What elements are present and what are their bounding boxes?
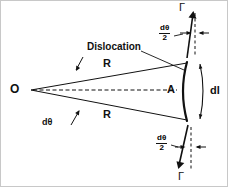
- arc-length-label: dl: [210, 85, 220, 96]
- half-angle-numerator-bottom: dθ: [156, 134, 167, 142]
- line-tension-label-top: Γ: [179, 2, 185, 13]
- half-angle-denominator-bottom: 2: [156, 144, 167, 152]
- half-angle-leader-line-bottom: [171, 145, 178, 147]
- diagram-canvas: [1, 1, 228, 187]
- line-tension-vector-bottom-arrowhead: [177, 161, 185, 169]
- half-angle-gap-arrowhead-right-top: [199, 31, 204, 35]
- half-angle-fraction-bottom: dθ 2: [156, 134, 167, 153]
- arc-length-bracket: [200, 64, 203, 119]
- half-angle-denominator-top: 2: [159, 34, 170, 42]
- half-angle-numerator-top: dθ: [159, 24, 170, 32]
- line-tension-vector-top: [187, 14, 193, 58]
- radius-label-upper: R: [103, 58, 111, 69]
- origin-label: O: [10, 83, 19, 95]
- half-angle-fraction-top: dθ 2: [159, 24, 170, 43]
- dislocation-arc: [183, 62, 187, 121]
- radius-label-lower: R: [103, 109, 111, 120]
- line-tension-label-bottom: Γ: [178, 171, 184, 182]
- arc-midpoint-label: A: [167, 84, 175, 95]
- subtended-angle-label: dθ: [42, 118, 52, 127]
- dislocation-line-tension-figure: O A R R dθ dl Dislocation Γ Γ dθ 2 dθ 2: [0, 0, 228, 187]
- line-tension-vector-bottom: [179, 125, 188, 165]
- half-angle-leader-line-top: [174, 34, 183, 36]
- half-angle-gap-arrowhead-right-bottom: [196, 145, 201, 149]
- dislocation-label: Dislocation: [87, 42, 141, 52]
